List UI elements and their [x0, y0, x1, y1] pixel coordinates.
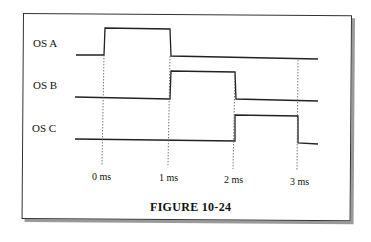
signal-os-b: [75, 71, 318, 101]
tick-2ms: 2 ms: [224, 174, 243, 185]
tick-0ms: 0 ms: [92, 171, 111, 182]
signal-os-c: [75, 115, 318, 144]
tick-1ms: 1 ms: [159, 172, 178, 183]
gridline-1ms: [168, 56, 170, 165]
signal-os-a: [76, 28, 318, 59]
label-os-c: OS C: [32, 122, 56, 134]
figure-caption: FIGURE 10-24: [150, 200, 231, 215]
label-os-a: OS A: [33, 37, 57, 49]
tick-3ms: 3 ms: [290, 176, 309, 187]
label-os-b: OS B: [33, 79, 57, 91]
gridline-0ms: [102, 55, 104, 165]
